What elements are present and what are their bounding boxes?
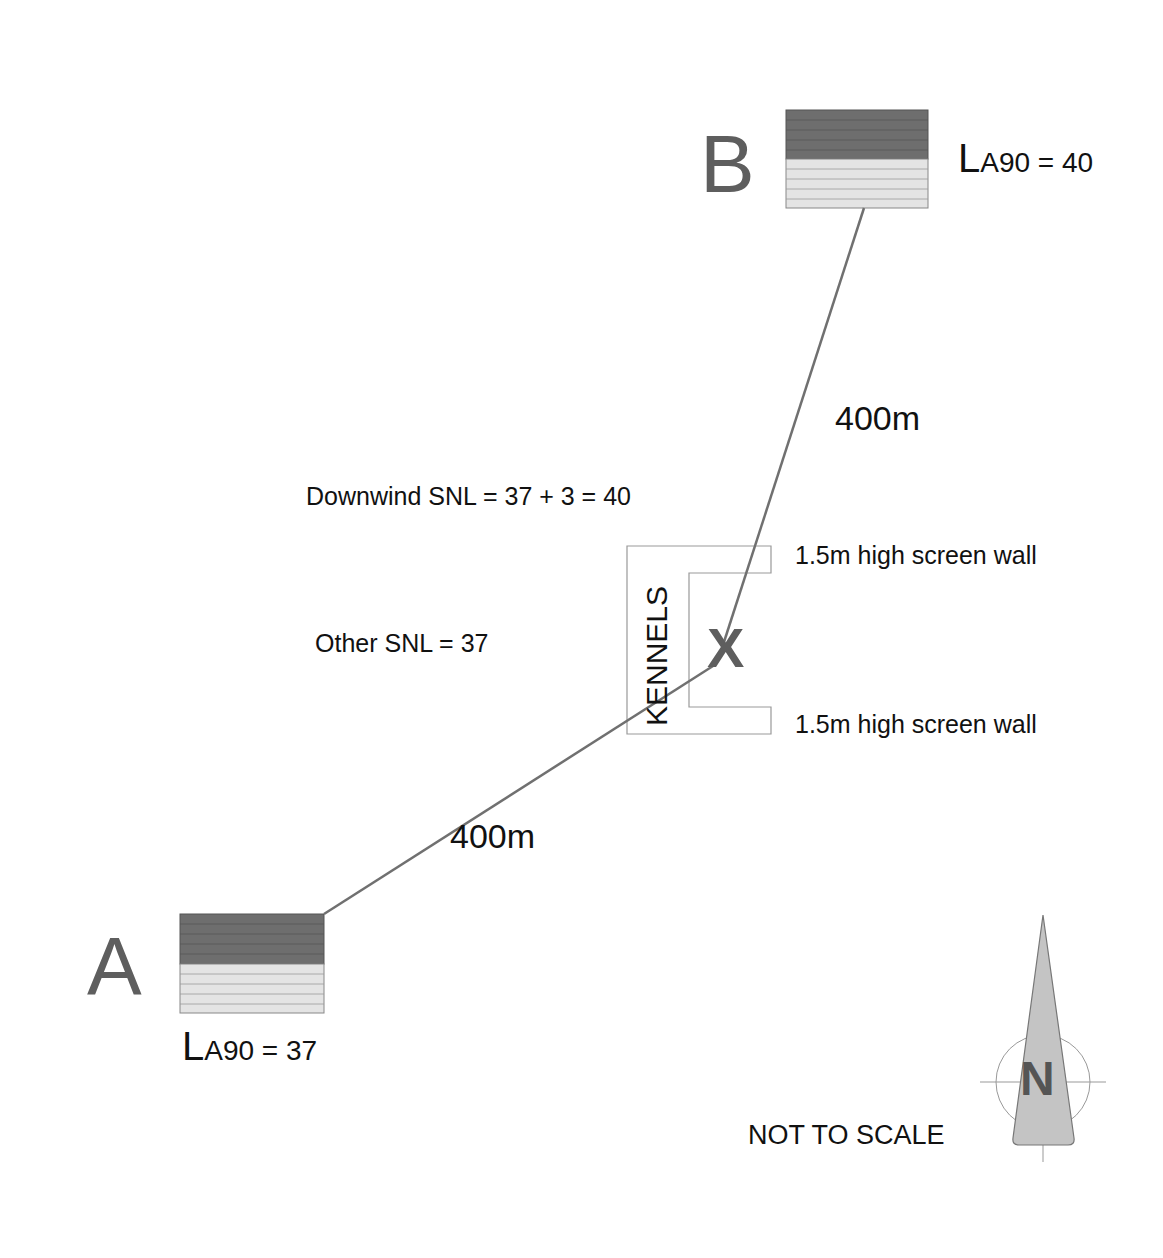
kennels-label: KENNELS <box>642 586 672 726</box>
building-b-letter: B <box>700 123 755 205</box>
other-snl-label: Other SNL = 37 <box>315 631 488 656</box>
diagram-canvas <box>0 0 1163 1258</box>
level-prefix: L <box>958 136 980 180</box>
screen-wall-bottom-label: 1.5m high screen wall <box>795 712 1037 737</box>
building-a-letter: A <box>87 925 142 1007</box>
distance-label-a: 400m <box>450 819 535 853</box>
building-b <box>786 110 928 208</box>
building-a-level: LA90 = 37 <box>182 1026 317 1066</box>
level-value: A90 = 37 <box>204 1035 317 1066</box>
north-label: N <box>1020 1055 1055 1103</box>
north-arrow-icon <box>980 915 1106 1162</box>
not-to-scale-label: NOT TO SCALE <box>748 1122 945 1149</box>
screen-wall-top-label: 1.5m high screen wall <box>795 543 1037 568</box>
level-value: A90 = 40 <box>980 147 1093 178</box>
downwind-snl-label: Downwind SNL = 37 + 3 = 40 <box>306 484 631 509</box>
receiver-x-marker: X <box>707 620 744 676</box>
distance-label-b: 400m <box>835 401 920 435</box>
level-prefix: L <box>182 1024 204 1068</box>
building-a <box>180 914 324 1013</box>
building-b-level: LA90 = 40 <box>958 138 1093 178</box>
